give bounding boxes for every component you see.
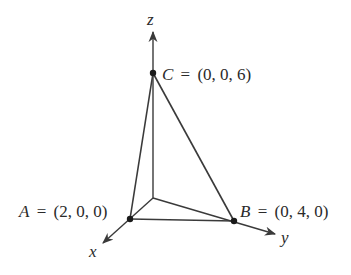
- point-c: [150, 70, 156, 76]
- x-axis-label: x: [88, 242, 97, 261]
- z-axis-label: z: [146, 10, 154, 29]
- point-b: [231, 218, 237, 224]
- point-b-label: B = (0, 4, 0): [240, 202, 328, 221]
- edge-bc: [153, 73, 234, 221]
- tetrahedron-diagram: z y x C = (0, 0, 6) A = (2, 0, 0) B = (0…: [0, 0, 351, 275]
- point-a-label: A = (2, 0, 0): [18, 202, 107, 221]
- point-a: [127, 216, 133, 222]
- y-axis-label: y: [279, 228, 289, 247]
- edge-ac: [130, 73, 153, 219]
- edge-ab: [130, 219, 234, 221]
- point-c-label: C = (0, 0, 6): [162, 65, 251, 84]
